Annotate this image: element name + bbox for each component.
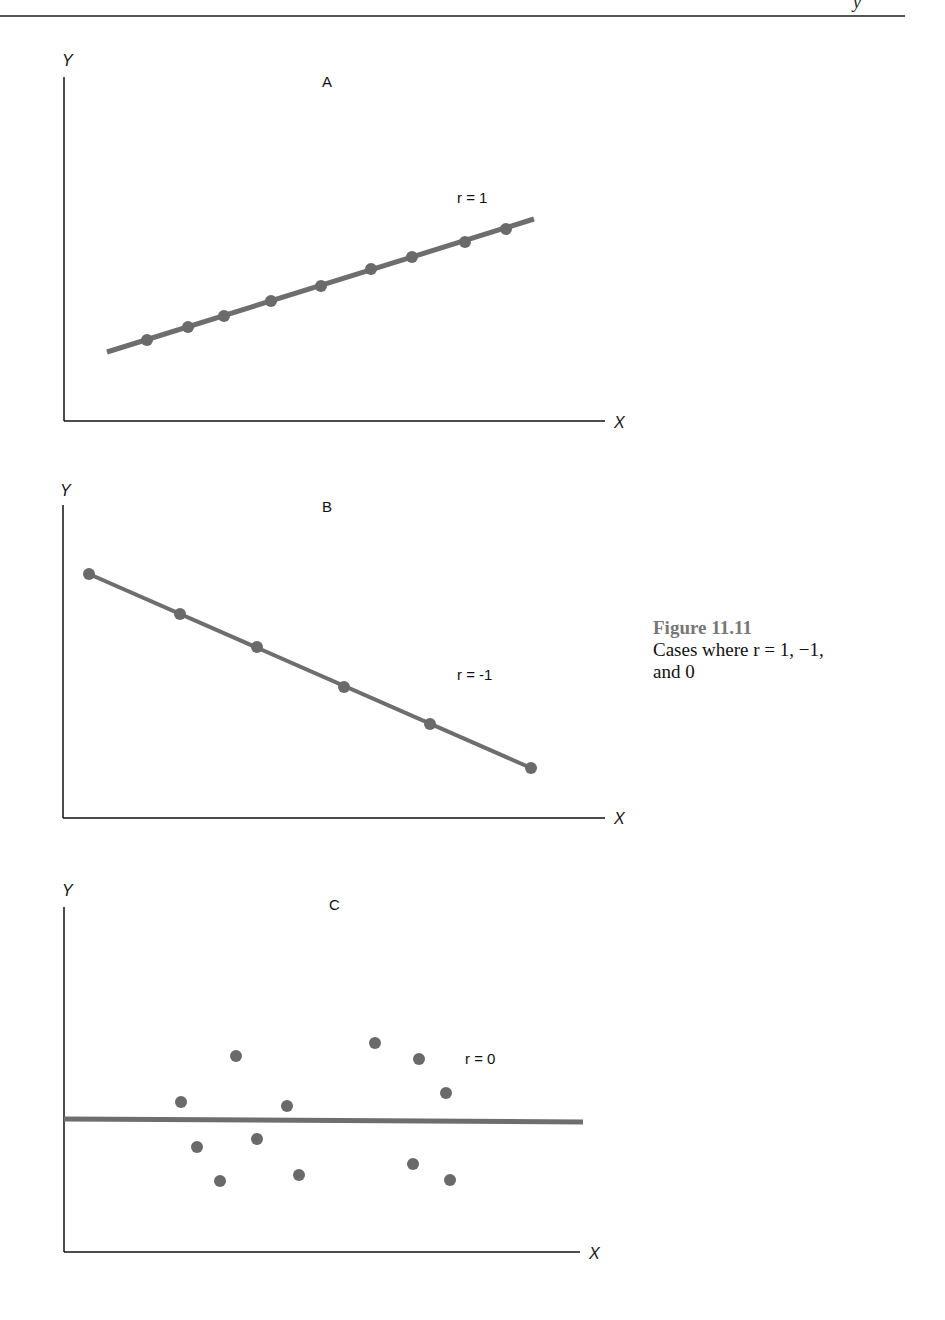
caption-line-2: and 0: [653, 661, 695, 682]
figure-caption: Figure 11.11 Cases where r = 1, −1, and …: [653, 617, 913, 683]
panel-b: Y X B r = -1: [60, 482, 626, 827]
correlation-label: r = -1: [457, 666, 492, 683]
y-axis-label: Y: [60, 482, 72, 499]
regression-line: [64, 1119, 583, 1122]
caption-line-1: Cases where r = 1, −1,: [653, 639, 824, 660]
correlation-label: r = 0: [465, 1050, 495, 1067]
panel-a: Y X A r = 1: [62, 52, 626, 431]
y-axis-label: Y: [62, 882, 74, 899]
x-axis-label: X: [613, 810, 626, 827]
x-axis-label: X: [613, 414, 626, 431]
panel-title: C: [329, 896, 340, 913]
correlation-label: r = 1: [457, 189, 487, 206]
figure-number: Figure 11.11: [653, 617, 913, 639]
panel-title: B: [322, 498, 332, 515]
x-axis-label: X: [588, 1245, 601, 1262]
panel-title: A: [322, 73, 332, 90]
y-axis-label: Y: [62, 52, 74, 69]
data-points: [175, 1037, 456, 1187]
panel-c: Y X C r = 0: [62, 882, 601, 1262]
